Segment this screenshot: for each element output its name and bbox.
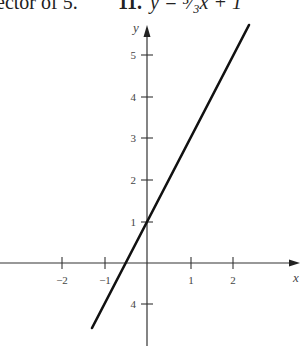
y-tick-label: 2 <box>131 174 137 186</box>
x-tick-label: −1 <box>99 274 111 286</box>
line-chart: x y −2−112 543214 <box>0 0 303 346</box>
y-tick-label: 4 <box>131 91 137 103</box>
y-tick-label: 5 <box>131 49 137 61</box>
y-tick-label: 4 <box>131 298 137 310</box>
x-tick-label: −2 <box>56 274 68 286</box>
y-axis-label: y <box>131 20 139 35</box>
y-tick-label: 3 <box>131 132 137 144</box>
data-line <box>92 25 249 328</box>
y-axis-arrow-icon <box>144 25 151 37</box>
x-tick-label: 1 <box>188 274 194 286</box>
x-ticks: −2−112 <box>56 257 236 286</box>
x-axis-label: x <box>292 270 299 285</box>
x-tick-label: 2 <box>230 274 236 286</box>
x-axis-arrow-icon <box>289 260 300 267</box>
y-tick-label: 1 <box>131 216 137 228</box>
y-ticks: 543214 <box>131 49 154 310</box>
